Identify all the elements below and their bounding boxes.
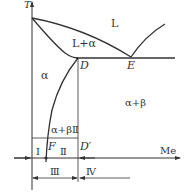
zone-ii-label: Ⅱ <box>60 147 67 157</box>
zone-i-label: Ⅰ <box>36 147 40 157</box>
zone-iii-label: Ⅲ <box>50 167 60 177</box>
point-f-label: F <box>48 141 56 152</box>
phase-diagram-canvas <box>0 0 186 192</box>
zone-iv-label: Ⅳ <box>86 167 96 177</box>
region-liquid: L <box>111 18 118 29</box>
region-alpha-beta: α+β <box>125 98 146 108</box>
point-f-marker <box>44 156 47 159</box>
x-axis-label: Me <box>160 146 176 156</box>
region-alpha-beta-ii: α+βⅡ <box>51 125 79 135</box>
point-d-prime-label: D′ <box>80 141 91 152</box>
y-axis-label: T <box>24 0 31 10</box>
point-d-label: D <box>80 60 89 71</box>
region-liquid-alpha: L+α <box>72 38 96 49</box>
liquidus-right <box>131 24 165 57</box>
region-alpha: α <box>41 70 48 81</box>
point-e-label: E <box>127 60 135 71</box>
